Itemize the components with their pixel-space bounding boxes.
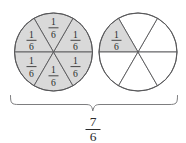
left-circle-sector-5-denominator: 6 [73,68,78,79]
left-circle-sector-4-numerator: 1 [51,64,56,75]
brace-right-half [93,96,178,111]
brace-left-half [11,96,93,111]
left-circle-sector-5-numerator: 1 [73,55,78,66]
left-circle-sector-3-denominator: 6 [29,68,34,79]
left-circle-sector-4-denominator: 6 [51,77,56,88]
right-circle-sector-2-numerator: 1 [114,29,119,40]
left-circle-sector-0-denominator: 6 [73,41,78,52]
total-fraction-denominator: 6 [90,129,97,143]
right-circle: 1 6 [99,13,177,91]
left-circle: 1 6 1 6 1 6 1 6 1 6 [15,13,93,91]
left-circle-sector-3-numerator: 1 [29,55,34,66]
total-fraction-numerator: 7 [90,114,97,129]
left-circle-sector-1-denominator: 6 [51,29,56,40]
right-circle-sector-2-denominator: 6 [114,41,119,52]
left-circle-sector-2-denominator: 6 [29,41,34,52]
total-fraction: 7 6 [86,114,101,142]
total-brace [11,96,178,111]
left-circle-sector-0-numerator: 1 [73,29,78,40]
fraction-circles-figure: 1 6 1 6 1 6 1 6 1 6 [0,0,186,142]
left-circle-sector-2-numerator: 1 [29,29,34,40]
left-circle-sector-1-numerator: 1 [51,16,56,27]
